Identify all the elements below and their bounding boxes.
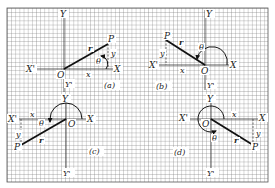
x-axis-label: X <box>113 64 121 74</box>
origin-label: O <box>57 70 65 80</box>
point-label: P <box>107 34 115 44</box>
angle-label: θ <box>212 134 217 143</box>
origin-label: O <box>202 119 210 129</box>
y-length-label: y <box>159 49 165 58</box>
x-axis-neg-label: X' <box>148 60 158 70</box>
trig-quadrant-diagram: Y X' X O Y' P r θ y x (a) Y X' X O <box>0 0 275 188</box>
y-axis-label: Y <box>207 94 214 104</box>
panel-caption: (a) <box>104 81 115 90</box>
x-axis-label: X <box>229 60 237 70</box>
y-axis-neg-label: Y' <box>207 81 214 90</box>
panel-caption: (c) <box>89 147 100 156</box>
angle-label: θ <box>199 43 204 52</box>
x-axis-neg-label: X' <box>7 114 17 124</box>
y-axis-neg-label: Y' <box>207 169 214 178</box>
panel-caption: (b) <box>156 82 167 91</box>
x-length-label: x <box>30 110 35 119</box>
y-axis-label: Y <box>62 94 69 104</box>
point-label: P <box>13 142 21 152</box>
x-length-label: x <box>86 70 91 79</box>
x-length-label: x <box>180 66 185 75</box>
origin-label: O <box>201 66 209 76</box>
x-length-label: x <box>232 110 237 119</box>
angle-label: θ <box>39 119 44 128</box>
y-length-label: y <box>255 129 261 138</box>
origin-label: O <box>68 119 76 129</box>
panel-caption: (d) <box>174 148 185 157</box>
x-axis-neg-label: X' <box>25 64 35 74</box>
y-length-label: y <box>15 130 21 139</box>
x-axis-neg-label: X' <box>178 113 188 123</box>
y-axis-label: Y <box>206 9 213 19</box>
y-axis-neg-label: Y' <box>63 169 70 178</box>
y-axis-neg-label: Y' <box>65 80 72 89</box>
x-axis-label: X <box>258 113 266 123</box>
x-axis-label: X <box>86 114 94 124</box>
point-label: P <box>163 31 171 41</box>
angle-label: θ <box>96 57 101 66</box>
y-length-label: y <box>110 49 116 58</box>
graph-paper-grid <box>7 8 268 182</box>
point-label: P <box>251 142 259 152</box>
y-axis-label: Y <box>60 9 67 19</box>
